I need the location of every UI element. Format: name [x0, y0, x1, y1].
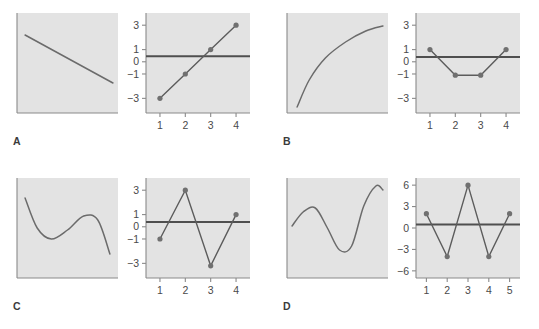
data-point	[445, 254, 450, 259]
data-point	[465, 183, 470, 188]
data-point	[183, 188, 188, 193]
left-plot-background	[17, 178, 118, 278]
data-point	[478, 73, 483, 78]
y-tick-label: −3	[397, 243, 409, 255]
y-tick-label: 0	[403, 55, 409, 67]
data-point	[208, 263, 213, 268]
data-point	[486, 254, 491, 259]
y-tick-label: −1	[127, 68, 139, 80]
panel-d-svg: 630−3−612345	[270, 165, 539, 329]
panel-a: 310−1−31234A	[0, 0, 270, 165]
x-tick-label: 4	[233, 284, 239, 296]
right-plot-background	[416, 13, 520, 113]
panel-b-left-plot	[287, 13, 388, 113]
data-point	[503, 47, 508, 52]
data-point	[233, 212, 238, 217]
panel-a-svg: 310−1−31234	[0, 0, 270, 165]
x-tick-label: 2	[444, 284, 450, 296]
x-tick-label: 1	[423, 284, 429, 296]
panel-c-right-plot: 310−1−31234	[127, 178, 250, 296]
y-tick-label: 6	[403, 179, 409, 191]
y-tick-label: 0	[403, 222, 409, 234]
panel-b: 310−1−31234B	[270, 0, 539, 165]
y-tick-label: 1	[403, 43, 409, 55]
y-tick-label: −3	[127, 92, 139, 104]
data-point	[233, 23, 238, 28]
y-tick-label: −3	[127, 257, 139, 269]
panel-d: 630−3−612345D	[270, 165, 539, 329]
x-tick-label: 3	[208, 119, 214, 131]
x-tick-label: 2	[452, 119, 458, 131]
x-tick-label: 1	[427, 119, 433, 131]
right-plot-background	[416, 178, 520, 278]
x-tick-label: 5	[507, 284, 513, 296]
panel-c: 310−1−31234C	[0, 165, 270, 329]
y-tick-label: −1	[397, 68, 409, 80]
x-tick-label: 3	[465, 284, 471, 296]
data-point	[183, 71, 188, 76]
data-point	[157, 236, 162, 241]
data-point	[507, 211, 512, 216]
panel-a-right-plot: 310−1−31234	[127, 13, 250, 131]
x-tick-label: 4	[233, 119, 239, 131]
y-tick-label: −6	[397, 265, 409, 277]
y-tick-label: 3	[403, 19, 409, 31]
left-plot-background	[287, 178, 388, 278]
panel-c-svg: 310−1−31234	[0, 165, 270, 329]
y-tick-label: −1	[127, 233, 139, 245]
panel-d-left-plot	[287, 178, 388, 278]
data-point	[208, 47, 213, 52]
panel-a-left-plot	[17, 13, 118, 113]
y-tick-label: 3	[133, 19, 139, 31]
y-tick-label: 3	[403, 200, 409, 212]
panel-b-right-plot: 310−1−31234	[397, 13, 520, 131]
data-point	[453, 73, 458, 78]
y-tick-label: −3	[397, 92, 409, 104]
y-tick-label: 0	[133, 55, 139, 67]
x-tick-label: 2	[182, 119, 188, 131]
x-tick-label: 4	[486, 284, 492, 296]
residual-plots-figure: 310−1−31234A310−1−31234B310−1−31234C630−…	[0, 0, 539, 329]
data-point	[157, 96, 162, 101]
panel-label-c: C	[13, 300, 21, 312]
y-tick-label: 1	[133, 43, 139, 55]
x-tick-label: 1	[157, 119, 163, 131]
x-tick-label: 2	[182, 284, 188, 296]
panel-d-right-plot: 630−3−612345	[397, 178, 520, 296]
data-point	[424, 211, 429, 216]
x-tick-label: 3	[478, 119, 484, 131]
y-tick-label: 3	[133, 184, 139, 196]
panel-label-b: B	[283, 135, 291, 147]
panel-b-svg: 310−1−31234	[270, 0, 539, 165]
left-plot-background	[17, 13, 118, 113]
x-tick-label: 1	[157, 284, 163, 296]
panel-label-d: D	[283, 300, 291, 312]
data-point	[427, 47, 432, 52]
panel-label-a: A	[13, 135, 21, 147]
x-tick-label: 3	[208, 284, 214, 296]
panel-c-left-plot	[17, 178, 118, 278]
x-tick-label: 4	[503, 119, 509, 131]
y-tick-label: 0	[133, 220, 139, 232]
y-tick-label: 1	[133, 208, 139, 220]
